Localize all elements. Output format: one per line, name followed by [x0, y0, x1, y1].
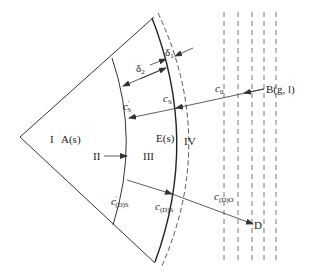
delta2-label: δ2 [136, 62, 145, 76]
region-iii-label: E(s) [156, 132, 175, 145]
diagram-canvas: I A(s) II III E(s) IV δ2 δ1 c0 cS c'S c'… [0, 0, 309, 276]
delta1-dimension-arrow-right [175, 48, 193, 56]
wedge-upper-edge [20, 17, 154, 137]
region-ii-numeral: II [93, 150, 101, 162]
flux-arrow-inner-to-outer [127, 180, 172, 194]
c0-label: c0 [215, 82, 224, 96]
wedge-lower-edge [20, 137, 155, 263]
bulk-phase-dashed-lines [224, 12, 276, 262]
delta1-label: δ1 [165, 46, 174, 60]
region-iii-numeral: III [143, 150, 154, 162]
flux-arrow-surface-to-inner [129, 108, 178, 118]
flux-arrow-to-d [172, 194, 253, 224]
region-i-numeral: I [50, 133, 54, 145]
cs-prime-label: c'S [123, 99, 131, 114]
region-iv-numeral: IV [184, 135, 196, 147]
sector-diagram: I A(s) II III E(s) IV δ2 δ1 c0 cS c'S c'… [0, 0, 309, 276]
cds-prime-label: c'(D)S [111, 194, 129, 209]
region-i-label: A(s) [61, 133, 81, 146]
delta1-dimension-arrow-left [150, 59, 166, 65]
point-b-label: B(g, l) [266, 83, 295, 96]
cs-label: cS [163, 92, 172, 106]
point-d-label: D [254, 219, 262, 231]
flux-arrow-b-mid [244, 89, 264, 93]
